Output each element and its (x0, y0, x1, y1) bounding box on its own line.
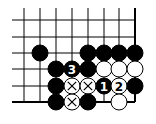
black-stone (48, 61, 64, 77)
white-stone (111, 94, 127, 110)
black-stone (111, 45, 127, 61)
white-stone (111, 61, 127, 77)
white-stone-marked (64, 78, 80, 94)
black-stone (127, 45, 143, 61)
white-stone (96, 61, 112, 77)
black-stone (48, 78, 64, 94)
black-stone (127, 78, 143, 94)
move-number-label: 2 (115, 80, 123, 94)
move-number-label: 3 (68, 63, 76, 77)
black-stone-move-3: 3 (64, 61, 80, 77)
black-stone (96, 45, 112, 61)
black-stone (80, 61, 96, 77)
black-stone (80, 94, 96, 110)
black-stone (48, 94, 64, 110)
black-stone-move-1: 1 (96, 78, 112, 94)
black-stone (32, 45, 48, 61)
go-board-diagram: 312 (0, 0, 156, 124)
move-number-label: 1 (100, 80, 108, 94)
white-stone (127, 61, 143, 77)
go-board-svg: 312 (0, 0, 156, 124)
white-stone-marked (64, 94, 80, 110)
black-stone (80, 45, 96, 61)
white-stone-marked (80, 78, 96, 94)
white-stone-move-2: 2 (111, 78, 127, 94)
